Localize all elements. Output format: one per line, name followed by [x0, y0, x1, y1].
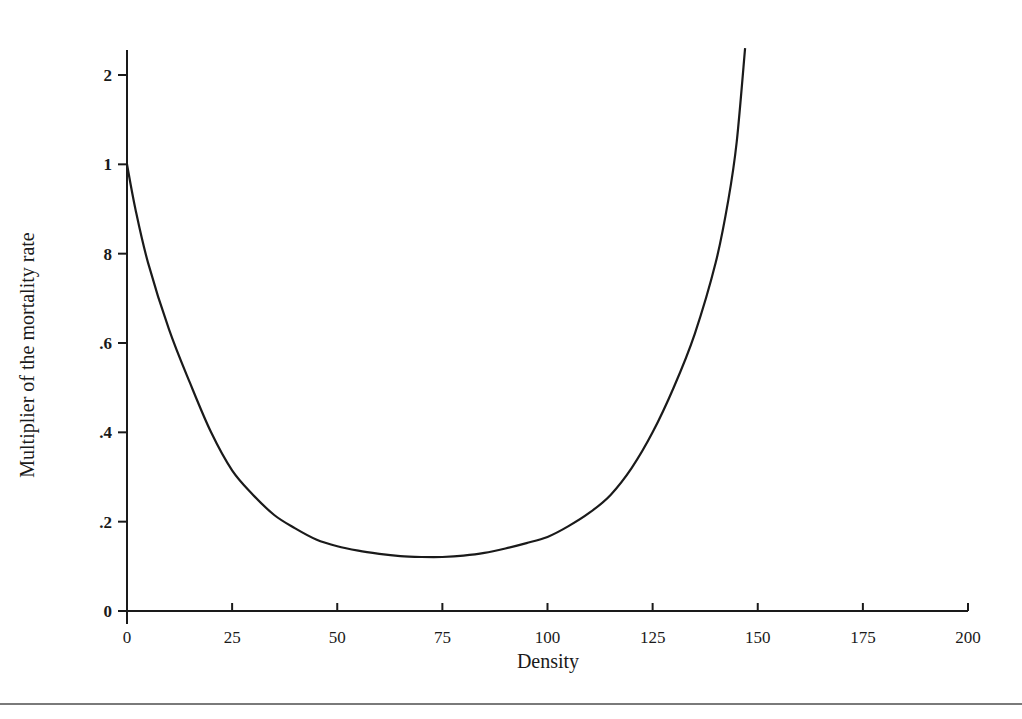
- x-axis-title: Density: [517, 650, 579, 673]
- x-tick-label: 175: [850, 628, 876, 647]
- x-tick-label: 75: [434, 628, 451, 647]
- x-tick-label: 150: [745, 628, 771, 647]
- y-tick-label: .4: [99, 423, 112, 442]
- chart: 0.2.4.6812 0255075100125150175200 Densit…: [0, 0, 1022, 719]
- x-tick-label: 0: [123, 628, 132, 647]
- page-divider: [0, 703, 1022, 705]
- x-tick-label: 200: [955, 628, 981, 647]
- x-tick-label: 100: [535, 628, 561, 647]
- y-ticks: 0.2.4.6812: [99, 66, 127, 621]
- data-line: [127, 48, 745, 557]
- y-tick-label: .2: [99, 513, 112, 532]
- y-tick-label: 0: [104, 602, 113, 621]
- x-tick-label: 50: [329, 628, 346, 647]
- y-tick-label: .6: [99, 334, 112, 353]
- x-ticks: 0255075100125150175200: [123, 603, 981, 647]
- x-tick-label: 125: [640, 628, 666, 647]
- y-tick-label: 2: [104, 66, 113, 85]
- y-axis-title: Multiplier of the mortality rate: [16, 232, 39, 478]
- x-tick-label: 25: [224, 628, 241, 647]
- y-tick-label: 1: [104, 155, 113, 174]
- y-tick-label: 8: [104, 245, 113, 264]
